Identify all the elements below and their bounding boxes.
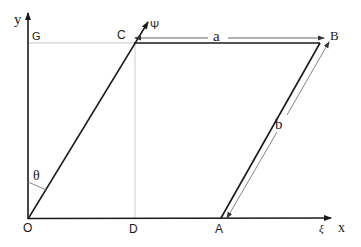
- y-axis-label: y: [14, 11, 22, 27]
- parallelogram-diagram: y G C Ψ a B b θ O D A ξ x: [0, 0, 361, 247]
- point-label-b: B: [330, 28, 339, 43]
- dimension-label-a: a: [213, 28, 220, 44]
- dimension-b-upper: [287, 42, 329, 115]
- edge-ab: [221, 43, 320, 218]
- point-label-d: D: [129, 222, 138, 236]
- point-label-g: G: [32, 30, 41, 42]
- point-label-o: O: [23, 221, 32, 235]
- dimension-b-lower: [227, 132, 277, 218]
- theta-angle-label: θ: [33, 168, 40, 183]
- psi-axis: [28, 22, 148, 219]
- point-label-c: C: [117, 28, 126, 42]
- x-axis: [28, 218, 331, 219]
- psi-axis-label: Ψ: [150, 19, 159, 31]
- dimension-label-b: b: [275, 116, 283, 132]
- xi-axis-label: ξ: [319, 222, 324, 235]
- x-axis-label: x: [338, 220, 345, 235]
- point-label-a: A: [215, 222, 223, 236]
- theta-angle-arc: [28, 182, 46, 190]
